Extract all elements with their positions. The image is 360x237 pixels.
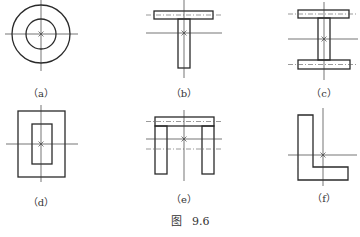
caption-b: （b） <box>171 88 197 99</box>
caption-c: （c） <box>311 88 337 99</box>
panel-f-angle-section: （f） <box>288 108 357 204</box>
caption-f: （f） <box>312 193 336 204</box>
figure-title: 图 9.6 <box>171 215 210 228</box>
panel-a-tube-section: （a） <box>5 0 78 99</box>
panel-d-hollow-rectangle: （d） <box>6 105 78 208</box>
panel-c-i-section: （c） <box>288 2 358 99</box>
figure-9-6: （a） （b） （c） <box>0 0 360 237</box>
caption-a: （a） <box>28 88 54 99</box>
right-leg <box>202 126 214 174</box>
panel-e-channel-section: （e） <box>146 110 222 205</box>
caption-d: （d） <box>28 197 54 208</box>
panel-b-t-section: （b） <box>146 0 222 99</box>
caption-e: （e） <box>171 194 197 205</box>
left-leg <box>155 126 167 174</box>
